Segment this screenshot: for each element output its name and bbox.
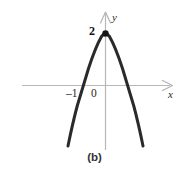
vertex-point-marker — [102, 30, 108, 36]
figure-caption: (b) — [0, 152, 189, 164]
origin-label: 0 — [91, 88, 97, 100]
y-intercept-value-label: 2 — [89, 25, 95, 37]
x-axis-label: x — [168, 89, 173, 100]
figure-container: y x 2 –1 0 (b) — [0, 0, 189, 174]
y-axis-label: y — [112, 12, 117, 23]
x-intercept-negative-one-label: –1 — [66, 88, 78, 100]
